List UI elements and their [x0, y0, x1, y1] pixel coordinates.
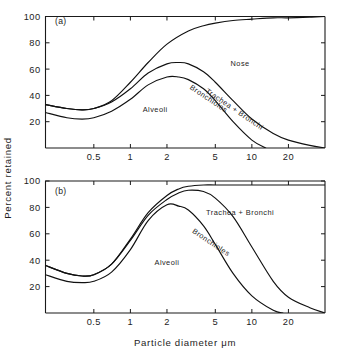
curves-a: [46, 17, 326, 149]
x-tick-label-b: 20: [283, 317, 294, 327]
x-tick-label-b: 1: [128, 317, 134, 327]
axis-frame-a: [46, 17, 326, 149]
x-axis-title: Particle diameter μm: [134, 337, 236, 348]
x-tick-label-b: 0.5: [87, 317, 101, 327]
x-tick-label-a: 2: [164, 152, 170, 162]
y-tick-label-a: 40: [29, 91, 40, 101]
x-tick-label-a: 10: [246, 152, 257, 162]
region-label-trachea-bronchi-a: Trachea + Bronchi: [204, 86, 265, 131]
y-axis-title: Percent retained: [2, 137, 13, 219]
panel-label-a: (a): [55, 16, 66, 26]
curve-trachea-bronchi-b: [46, 185, 326, 276]
region-label-nose-a: Nose: [231, 59, 250, 68]
y-tick-label-a: 80: [29, 38, 40, 48]
y-tick-label-b: 20: [29, 282, 40, 292]
x-tick-label-b: 10: [246, 317, 257, 327]
region-label-alveoli-b: Alveoli: [155, 258, 180, 267]
y-tick-label-b: 100: [24, 176, 41, 186]
y-tick-label-a: 100: [24, 12, 41, 22]
x-tick-label-b: 5: [213, 317, 219, 327]
panel-b: 204060801000.51251020Trachea + BronchiAl…: [24, 176, 325, 326]
figure-container: 204060801000.51251020NoseAlveoliBronchio…: [0, 0, 343, 354]
x-tick-label-a: 20: [283, 152, 294, 162]
y-tick-label-a: 20: [29, 117, 40, 127]
x-tick-label-a: 5: [213, 152, 219, 162]
region-label-bronchioles-b: Bronchioles: [191, 226, 232, 258]
x-tick-label-a: 1: [128, 152, 134, 162]
panel-a: 204060801000.51251020NoseAlveoliBronchio…: [24, 12, 325, 162]
particle-deposition-figure: 204060801000.51251020NoseAlveoliBronchio…: [0, 0, 343, 354]
y-tick-label-b: 60: [29, 229, 40, 239]
curve-trachea-bronchi-a: [46, 62, 326, 148]
panel-label-b: (b): [55, 186, 66, 196]
x-tick-label-a: 0.5: [87, 152, 101, 162]
y-tick-label-b: 40: [29, 256, 40, 266]
y-tick-label-b: 80: [29, 203, 40, 213]
curves-b: [46, 185, 326, 313]
region-label-alveoli-a: Alveoli: [143, 105, 168, 114]
region-label-trachea-bronchi-b: Trachea + Bronchi: [206, 208, 274, 217]
y-tick-label-a: 60: [29, 65, 40, 75]
x-tick-label-b: 2: [164, 317, 170, 327]
